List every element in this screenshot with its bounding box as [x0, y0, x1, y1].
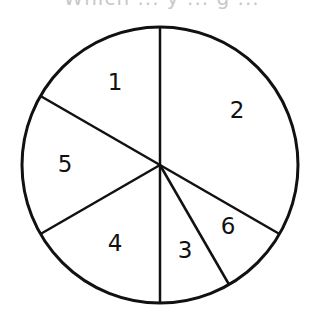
spinner-pie-chart: 1 2 3 4 5 6: [0, 0, 323, 328]
sector-label-3: 3: [178, 237, 193, 263]
sector-label-6: 6: [221, 213, 236, 239]
sector-label-4: 4: [108, 230, 123, 256]
sector-label-2: 2: [230, 97, 245, 123]
sector-label-1: 1: [108, 69, 123, 95]
sector-label-5: 5: [58, 151, 73, 177]
